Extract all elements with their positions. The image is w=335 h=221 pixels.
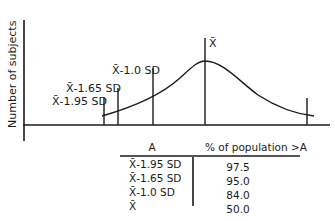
marker-label-mean: X̄ (209, 37, 217, 50)
marker-label-1-0sd: X̄-1.0 SD (112, 64, 160, 77)
y-axis-label: Number of subjects (6, 20, 19, 128)
table-header-pct: % of population >A (205, 141, 308, 153)
table-cell-a: X̄-1.95 SD (129, 158, 181, 170)
table-cell-pct: 84.0 (226, 189, 249, 201)
table-row: X̄-1.0 SD 84.0 (129, 186, 250, 201)
table-cell-a: X̄-1.65 SD (129, 172, 181, 184)
table-cell-pct: 97.5 (226, 161, 249, 173)
table-header-a: A (148, 141, 156, 153)
table-row: X̄ 50.0 (129, 200, 250, 215)
table-cell-pct: 50.0 (226, 203, 249, 215)
table-cell-pct: 95.0 (226, 175, 249, 187)
table-row: X̄-1.65 SD 95.0 (129, 172, 250, 187)
marker-label-1-65sd: X̄-1.65 SD (66, 82, 121, 95)
table-cell-a: X̄-1.0 SD (129, 186, 175, 198)
table-cell-a: X̄ (129, 200, 136, 212)
distribution-diagram: Number of subjects X̄-1.95 SD X̄-1.65 SD… (0, 0, 335, 221)
table-row: X̄-1.95 SD 97.5 (129, 158, 250, 173)
marker-label-1-95sd: X̄-1.95 SD (52, 95, 107, 108)
